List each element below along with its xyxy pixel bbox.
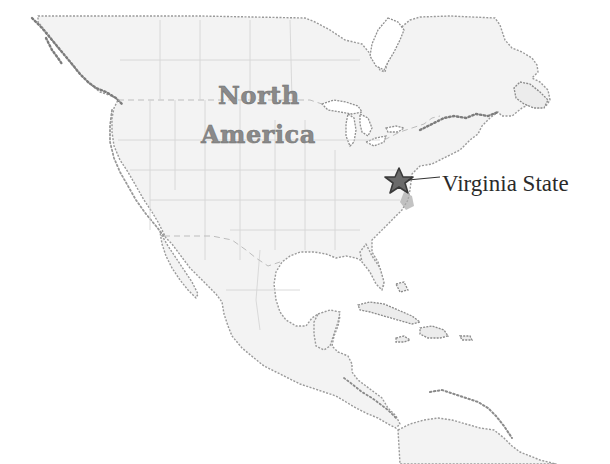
north-america-map: North America Virginia State	[0, 0, 610, 464]
continent-title-line2: America	[200, 120, 316, 149]
south-america	[398, 418, 556, 464]
cuba	[358, 302, 420, 324]
virginia-label: Virginia State	[442, 171, 569, 196]
map-canvas: North America Virginia State	[0, 0, 610, 464]
puerto-rico	[460, 336, 472, 340]
jamaica	[396, 336, 410, 342]
hispaniola	[420, 326, 448, 338]
continent-landmass	[38, 16, 550, 428]
continent-title-line1: North	[218, 81, 300, 110]
lake-michigan	[346, 114, 356, 146]
bahamas	[396, 282, 408, 292]
